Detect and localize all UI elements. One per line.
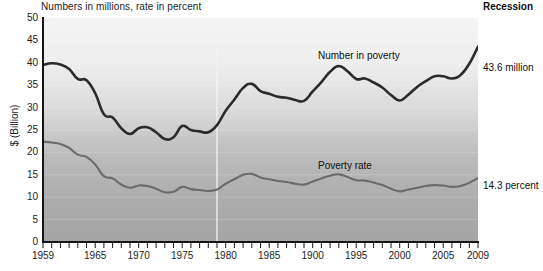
chart-subtitle: Numbers in millions, rate in percent — [41, 1, 201, 12]
x-tick-1965: 1965 — [84, 250, 106, 261]
x-tick-1970: 1970 — [128, 250, 150, 261]
y-tick-0: 0 — [14, 237, 38, 247]
x-tick-1995: 1995 — [345, 250, 367, 261]
end-label-number-in-poverty: 43.6 million — [483, 62, 534, 73]
x-tick-1980: 1980 — [215, 250, 237, 261]
x-axis-tick-marks — [43, 242, 478, 248]
x-tick-2009: 2009 — [467, 250, 489, 261]
poverty-chart-figure: Numbers in millions, rate in percent Rec… — [0, 0, 543, 271]
end-label-poverty-rate: 14.3 percent — [483, 180, 539, 191]
y-tick-35: 35 — [14, 80, 38, 90]
y-tick-10: 10 — [14, 192, 38, 202]
y-tick-15: 15 — [14, 170, 38, 180]
plot-area — [43, 18, 478, 242]
y-axis-tick-labels: 05101520253035404550 — [12, 0, 38, 271]
series-label-poverty-rate: Poverty rate — [318, 160, 372, 171]
x-tick-2000: 2000 — [389, 250, 411, 261]
x-tick-1975: 1975 — [171, 250, 193, 261]
y-tick-20: 20 — [14, 147, 38, 157]
x-tick-1985: 1985 — [258, 250, 280, 261]
y-tick-45: 45 — [14, 35, 38, 45]
plot-svg — [43, 18, 478, 242]
series-label-number-in-poverty: Number in poverty — [318, 50, 400, 61]
x-tick-1900: 1900 — [302, 250, 324, 261]
y-tick-5: 5 — [14, 215, 38, 225]
y-tick-25: 25 — [14, 125, 38, 135]
recession-legend-label: Recession — [483, 1, 533, 12]
x-tick-2005: 2005 — [432, 250, 454, 261]
y-tick-50: 50 — [14, 13, 38, 23]
y-tick-40: 40 — [14, 58, 38, 68]
x-tick-1959: 1959 — [32, 250, 54, 261]
y-tick-30: 30 — [14, 103, 38, 113]
